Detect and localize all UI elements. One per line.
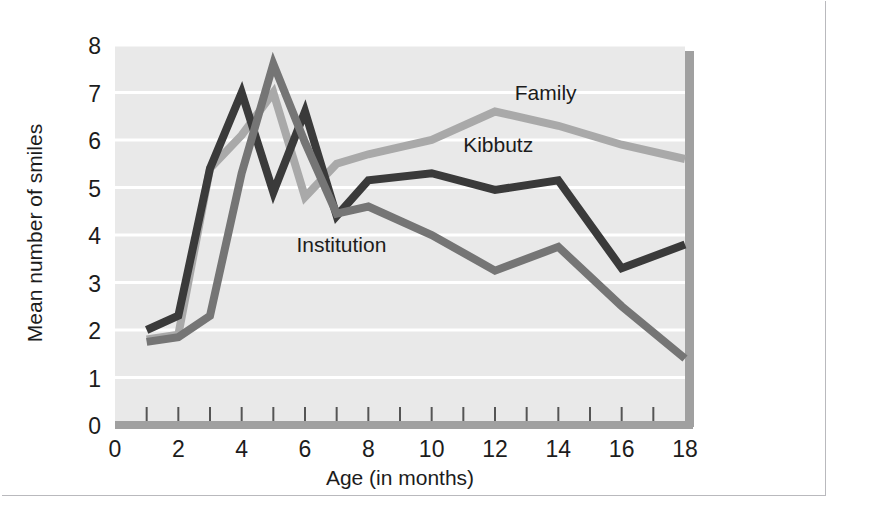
x-tick-label: 18 [672, 436, 698, 462]
y-tick-label: 2 [88, 318, 101, 344]
x-tick-label: 2 [172, 436, 185, 462]
y-tick-label: 6 [88, 128, 101, 154]
page-frame: 012345678 024681012141618 FamilyKibbutzI… [2, 1, 826, 496]
x-axis-tick-labels: 024681012141618 [109, 436, 698, 462]
x-tick-label: 12 [482, 436, 508, 462]
line-chart: 012345678 024681012141618 FamilyKibbutzI… [2, 1, 762, 497]
plot-right-shadow-bar [685, 51, 694, 427]
y-axis-tick-labels: 012345678 [88, 33, 101, 439]
x-axis-bar [115, 421, 693, 429]
y-tick-label: 5 [88, 176, 101, 202]
x-tick-label: 8 [362, 436, 375, 462]
y-tick-label: 1 [88, 366, 101, 392]
series-label-institution: Institution [296, 233, 386, 256]
x-tick-label: 14 [546, 436, 572, 462]
y-tick-label: 3 [88, 271, 101, 297]
x-tick-label: 16 [609, 436, 635, 462]
y-tick-label: 0 [88, 413, 101, 439]
x-tick-label: 0 [109, 436, 122, 462]
x-axis-title: Age (in months) [326, 466, 474, 489]
y-tick-label: 8 [88, 33, 101, 59]
figure-container: 012345678 024681012141618 FamilyKibbutzI… [2, 1, 762, 497]
x-tick-label: 10 [419, 436, 445, 462]
y-axis-title: Mean number of smiles [23, 124, 46, 342]
series-label-kibbutz: Kibbutz [463, 133, 533, 156]
y-tick-label: 4 [88, 223, 101, 249]
x-tick-label: 4 [235, 436, 248, 462]
series-label-family: Family [515, 81, 577, 104]
y-tick-label: 7 [88, 81, 101, 107]
x-tick-label: 6 [299, 436, 312, 462]
